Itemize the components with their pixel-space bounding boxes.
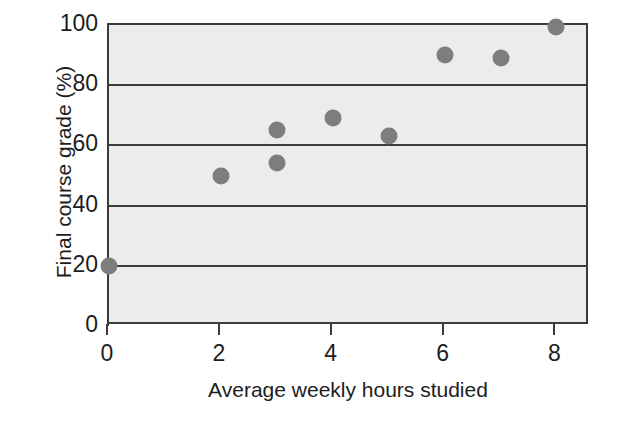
data-point xyxy=(548,18,565,35)
x-tick-label-0: 0 xyxy=(77,342,137,365)
gridline-y-20 xyxy=(109,265,586,267)
x-tick-label-2: 2 xyxy=(189,342,249,365)
gridline-y-80 xyxy=(109,84,586,86)
data-point xyxy=(436,47,453,64)
data-point xyxy=(212,167,229,184)
scatter-chart-figure: Final course grade (%) 020406080100 0246… xyxy=(0,0,619,423)
plot-area xyxy=(107,23,588,324)
x-tick-label-8: 8 xyxy=(524,342,584,365)
data-point xyxy=(492,50,509,67)
data-point xyxy=(380,128,397,145)
gridline-y-60 xyxy=(109,144,586,146)
y-tick-label-100: 100 xyxy=(18,12,98,35)
y-tick-label-0: 0 xyxy=(18,313,98,336)
data-point xyxy=(268,122,285,139)
y-tick-label-40: 40 xyxy=(18,192,98,215)
data-point xyxy=(268,155,285,172)
x-tick-mark-4 xyxy=(330,324,332,335)
x-axis-title: Average weekly hours studied xyxy=(107,378,589,402)
x-tick-mark-8 xyxy=(553,324,555,335)
x-tick-label-6: 6 xyxy=(413,342,473,365)
data-point xyxy=(324,110,341,127)
gridline-y-40 xyxy=(109,205,586,207)
data-point xyxy=(101,257,118,274)
x-tick-label-4: 4 xyxy=(301,342,361,365)
y-tick-label-60: 60 xyxy=(18,132,98,155)
x-tick-mark-0 xyxy=(106,324,108,335)
x-tick-mark-2 xyxy=(218,324,220,335)
x-tick-mark-6 xyxy=(442,324,444,335)
y-tick-label-80: 80 xyxy=(18,72,98,95)
y-tick-label-20: 20 xyxy=(18,252,98,275)
